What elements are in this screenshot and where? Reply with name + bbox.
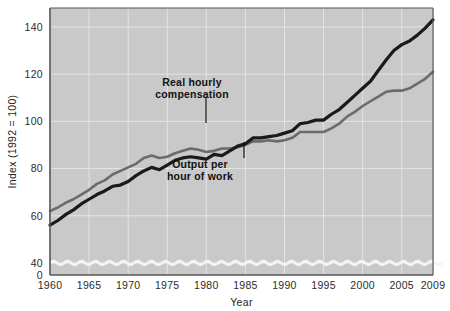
x-tick-label: 1975 [155,279,180,291]
x-axis-title: Year [230,296,253,308]
x-tick-label: 2005 [389,279,414,291]
y-tick-label: 80 [31,162,43,174]
x-tick-label: 1965 [77,279,102,291]
y-tick-label: 140 [25,21,43,33]
y-axis-title: Index (1992 = 100) [6,95,18,189]
x-tick-label: 1980 [194,279,219,291]
y-tick-label: 120 [25,68,43,80]
annotation-label-line2: compensation [155,88,229,100]
y-tick-label: 100 [25,115,43,127]
x-tick-label: 2000 [350,279,375,291]
chart-figure: 0406080100120140196019651970197519801985… [0,0,450,311]
line-chart: 0406080100120140196019651970197519801985… [0,0,450,311]
plot-background [50,8,433,275]
annotation-label-line2: hour of work [167,170,233,182]
x-tick-labels: 1960196519701975198019851990199520002005… [38,279,446,291]
x-tick-label: 1960 [38,279,63,291]
x-tick-label: 2009 [421,279,446,291]
y-tick-label: 40 [31,257,43,269]
x-tick-label: 1990 [272,279,297,291]
x-tick-label: 1985 [233,279,258,291]
x-tick-label: 1995 [311,279,336,291]
x-tick-label: 1970 [116,279,141,291]
y-tick-labels: 0406080100120140 [25,21,43,281]
annotation-label-line1: Real hourly [162,76,221,88]
y-tick-label: 60 [31,210,43,222]
annotation-label-line1: Output per [172,158,228,170]
